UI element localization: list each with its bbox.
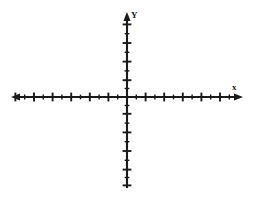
y-axis-top-arrow-icon: [123, 12, 130, 21]
x-axis-right-arrow-icon: [234, 93, 243, 100]
y-axis-label: Y: [131, 11, 138, 20]
coordinate-plane-figure: Y x: [0, 0, 253, 199]
x-axis-label: x: [232, 83, 237, 92]
coordinate-axes-graphic: [0, 0, 253, 199]
